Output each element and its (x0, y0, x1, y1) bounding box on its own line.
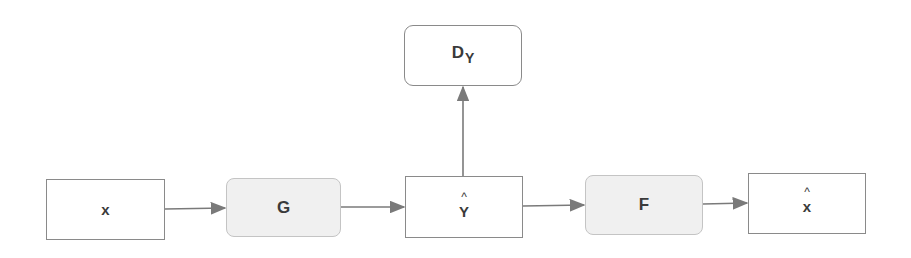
node-y-hat-label: ^ Y (459, 203, 469, 220)
d-subscript: Y (465, 50, 474, 66)
edge-x-to-g (165, 208, 225, 209)
node-x-label: x (101, 201, 109, 218)
edge-yhat-to-f (523, 205, 584, 206)
node-f-label: F (639, 195, 649, 215)
node-y-hat: ^ Y (405, 176, 523, 238)
node-x-hat-label: ^ x (803, 198, 811, 215)
node-d-y-label: DY (452, 43, 475, 63)
x-letter: x (803, 198, 811, 215)
node-g-label: G (277, 198, 290, 218)
node-x-hat: ^ x (748, 173, 866, 234)
node-x: x (46, 179, 165, 240)
node-f: F (585, 175, 703, 235)
node-d-y: DY (404, 25, 522, 86)
hat-accent: ^ (804, 185, 810, 199)
d-letter: D (452, 43, 464, 62)
hat-accent: ^ (461, 190, 467, 204)
y-letter: Y (459, 203, 469, 220)
node-g: G (226, 178, 341, 237)
edge-f-to-xhat (703, 203, 747, 204)
